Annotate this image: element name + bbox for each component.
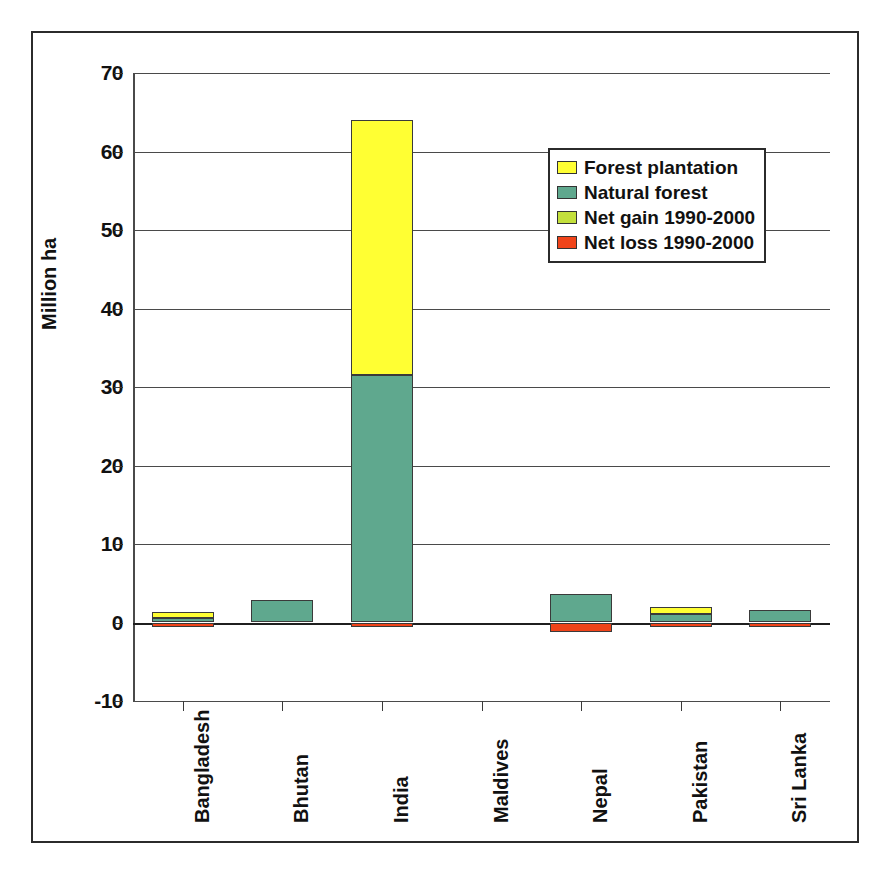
legend-swatch-plantation-icon [557, 161, 577, 174]
bar-segment-net-loss[interactable] [749, 623, 811, 627]
y-tick-mark [114, 623, 123, 624]
legend-swatch-natural-icon [557, 186, 577, 199]
bar-segment-net-loss[interactable] [152, 623, 214, 627]
legend-item[interactable]: Net gain 1990-2000 [557, 205, 755, 230]
x-tick-label: Bangladesh [191, 710, 214, 823]
bar-segment-net-loss[interactable] [650, 623, 712, 627]
x-tick-mark [681, 701, 682, 711]
bar-segment[interactable] [650, 614, 712, 623]
x-tick-mark [282, 701, 283, 711]
bar-segment[interactable] [550, 594, 612, 622]
bar-group[interactable] [451, 73, 513, 701]
bar-segment[interactable] [351, 375, 413, 622]
bar-segment[interactable] [650, 607, 712, 614]
bar-segment[interactable] [152, 612, 214, 617]
x-tick-mark [581, 701, 582, 711]
y-tick-mark [114, 701, 123, 702]
legend-item[interactable]: Natural forest [557, 180, 755, 205]
y-tick-mark [114, 544, 123, 545]
x-axis-tick-labels: BangladeshBhutanIndiaMaldivesNepalPakist… [133, 705, 830, 830]
legend-item-label: Net gain 1990-2000 [584, 208, 755, 227]
chart-legend: Forest plantationNatural forestNet gain … [548, 148, 766, 263]
x-tick-mark [183, 701, 184, 711]
bar-group[interactable] [351, 73, 413, 701]
legend-item-label: Net loss 1990-2000 [584, 233, 754, 252]
x-tick-label: Bhutan [290, 754, 313, 823]
legend-item[interactable]: Forest plantation [557, 155, 755, 180]
x-tick-label: Sri Lanka [788, 733, 811, 823]
bar-segment[interactable] [351, 120, 413, 375]
y-tick-mark [114, 152, 123, 153]
legend-swatch-loss-icon [557, 236, 577, 249]
bar-segment-net-loss[interactable] [351, 623, 413, 627]
y-tick-mark [114, 466, 123, 467]
y-tick-mark [114, 230, 123, 231]
legend-item[interactable]: Net loss 1990-2000 [557, 230, 755, 255]
legend-item-label: Natural forest [584, 183, 708, 202]
y-tick-mark [114, 73, 123, 74]
y-tick-mark [114, 309, 123, 310]
legend-swatch-gain-icon [557, 211, 577, 224]
x-tick-mark [780, 701, 781, 711]
y-tick-mark [114, 387, 123, 388]
bar-segment[interactable] [251, 600, 313, 623]
x-tick-label: Pakistan [689, 741, 712, 823]
bar-group[interactable] [152, 73, 214, 701]
x-tick-mark [482, 701, 483, 711]
y-axis-tick-labels: 706050403020100-10 [55, 73, 123, 701]
legend-item-label: Forest plantation [584, 158, 738, 177]
x-tick-label: Maldives [490, 739, 513, 823]
bar-segment-net-loss[interactable] [550, 623, 612, 632]
x-tick-label: India [390, 776, 413, 823]
bar-group[interactable] [251, 73, 313, 701]
bar-segment[interactable] [749, 610, 811, 622]
x-tick-label: Nepal [589, 769, 612, 823]
x-tick-mark [382, 701, 383, 711]
